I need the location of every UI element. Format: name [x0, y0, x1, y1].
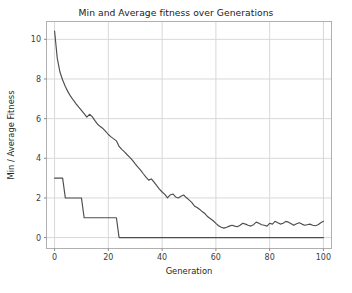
y-tick-label: 2 [36, 194, 41, 203]
grid-lines [47, 22, 332, 249]
x-axis-tick-labels: 020406080100 [52, 253, 331, 262]
y-tick-label: 10 [31, 35, 41, 44]
series-line [55, 178, 324, 237]
y-tick-label: 6 [36, 115, 41, 124]
y-axis-tick-labels: 0246810 [31, 35, 41, 242]
y-axis-title: Min / Average Fitness [6, 90, 16, 179]
plot-frame [44, 22, 332, 252]
data-series-lines [55, 31, 324, 238]
y-tick-label: 8 [36, 75, 41, 84]
x-tick-label: 20 [103, 253, 113, 262]
x-tick-label: 80 [265, 253, 275, 262]
y-tick-label: 0 [36, 234, 41, 243]
figure: Min and Average fitness over Generations… [0, 0, 352, 293]
x-tick-label: 100 [316, 253, 331, 262]
x-tick-label: 60 [211, 253, 221, 262]
x-axis-title: Generation [166, 266, 213, 276]
axes-frame [47, 22, 332, 249]
x-tick-label: 40 [157, 253, 167, 262]
x-tick-label: 0 [52, 253, 57, 262]
y-tick-label: 4 [36, 154, 41, 163]
series-line [55, 31, 324, 228]
chart-plot: 020406080100 0246810 Generation Min / Av… [0, 0, 352, 293]
